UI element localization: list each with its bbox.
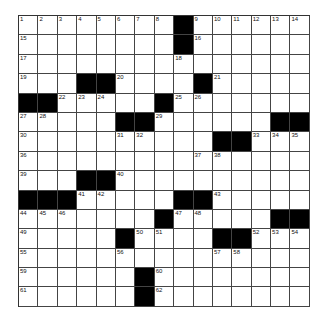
crossword-cell[interactable] [232, 171, 251, 190]
crossword-cell[interactable]: 7 [135, 16, 154, 35]
crossword-cell[interactable] [58, 268, 77, 287]
crossword-cell[interactable] [252, 287, 271, 306]
crossword-cell[interactable] [290, 287, 309, 306]
crossword-cell[interactable] [213, 55, 232, 74]
crossword-cell[interactable] [252, 35, 271, 54]
crossword-cell[interactable] [213, 210, 232, 229]
crossword-cell[interactable]: 58 [232, 249, 251, 268]
crossword-cell[interactable] [252, 152, 271, 171]
crossword-cell[interactable] [38, 171, 57, 190]
crossword-cell[interactable] [58, 74, 77, 93]
crossword-cell[interactable] [135, 152, 154, 171]
crossword-cell[interactable]: 11 [232, 16, 251, 35]
crossword-cell[interactable]: 18 [174, 55, 193, 74]
crossword-cell[interactable] [290, 74, 309, 93]
crossword-cell[interactable] [174, 229, 193, 248]
crossword-cell[interactable] [135, 249, 154, 268]
crossword-cell[interactable] [174, 113, 193, 132]
crossword-cell[interactable] [58, 55, 77, 74]
crossword-cell[interactable] [194, 229, 213, 248]
crossword-cell[interactable] [271, 268, 290, 287]
crossword-cell[interactable] [97, 113, 116, 132]
crossword-cell[interactable] [194, 249, 213, 268]
crossword-cell[interactable] [252, 249, 271, 268]
crossword-cell[interactable] [252, 94, 271, 113]
crossword-cell[interactable] [213, 94, 232, 113]
crossword-cell[interactable] [271, 287, 290, 306]
crossword-cell[interactable] [77, 55, 96, 74]
crossword-cell[interactable] [213, 171, 232, 190]
crossword-cell[interactable]: 34 [271, 132, 290, 151]
crossword-cell[interactable] [77, 249, 96, 268]
crossword-cell[interactable] [174, 132, 193, 151]
crossword-cell[interactable] [290, 55, 309, 74]
crossword-cell[interactable]: 53 [271, 229, 290, 248]
crossword-cell[interactable] [58, 35, 77, 54]
crossword-cell[interactable] [155, 132, 174, 151]
crossword-cell[interactable]: 41 [77, 191, 96, 210]
crossword-cell[interactable]: 49 [19, 229, 38, 248]
crossword-cell[interactable] [155, 74, 174, 93]
crossword-cell[interactable] [194, 171, 213, 190]
crossword-cell[interactable] [213, 268, 232, 287]
crossword-cell[interactable] [97, 268, 116, 287]
crossword-cell[interactable] [116, 268, 135, 287]
crossword-cell[interactable] [38, 287, 57, 306]
crossword-cell[interactable]: 2 [38, 16, 57, 35]
crossword-cell[interactable] [213, 113, 232, 132]
crossword-cell[interactable]: 39 [19, 171, 38, 190]
crossword-cell[interactable] [252, 74, 271, 93]
crossword-cell[interactable]: 62 [155, 287, 174, 306]
crossword-cell[interactable] [38, 152, 57, 171]
crossword-cell[interactable] [271, 191, 290, 210]
crossword-cell[interactable]: 60 [155, 268, 174, 287]
crossword-cell[interactable]: 35 [290, 132, 309, 151]
crossword-cell[interactable] [232, 55, 251, 74]
crossword-cell[interactable] [290, 35, 309, 54]
crossword-cell[interactable]: 50 [135, 229, 154, 248]
crossword-cell[interactable]: 3 [58, 16, 77, 35]
crossword-cell[interactable] [58, 171, 77, 190]
crossword-cell[interactable] [38, 132, 57, 151]
crossword-cell[interactable]: 15 [19, 35, 38, 54]
crossword-cell[interactable]: 12 [252, 16, 271, 35]
crossword-cell[interactable] [58, 113, 77, 132]
crossword-cell[interactable]: 17 [19, 55, 38, 74]
crossword-cell[interactable] [252, 268, 271, 287]
crossword-cell[interactable] [116, 55, 135, 74]
crossword-cell[interactable]: 51 [155, 229, 174, 248]
crossword-cell[interactable] [232, 210, 251, 229]
crossword-cell[interactable] [290, 171, 309, 190]
crossword-cell[interactable]: 57 [213, 249, 232, 268]
crossword-cell[interactable] [252, 55, 271, 74]
crossword-cell[interactable]: 28 [38, 113, 57, 132]
crossword-cell[interactable]: 13 [271, 16, 290, 35]
crossword-cell[interactable] [174, 152, 193, 171]
crossword-cell[interactable] [194, 268, 213, 287]
crossword-cell[interactable] [252, 113, 271, 132]
crossword-cell[interactable] [155, 55, 174, 74]
crossword-cell[interactable] [252, 191, 271, 210]
crossword-cell[interactable] [135, 35, 154, 54]
crossword-cell[interactable]: 45 [38, 210, 57, 229]
crossword-cell[interactable]: 56 [116, 249, 135, 268]
crossword-cell[interactable] [213, 287, 232, 306]
crossword-cell[interactable]: 19 [19, 74, 38, 93]
crossword-cell[interactable] [38, 55, 57, 74]
crossword-cell[interactable] [290, 94, 309, 113]
crossword-cell[interactable] [232, 35, 251, 54]
crossword-cell[interactable] [135, 210, 154, 229]
crossword-cell[interactable] [232, 152, 251, 171]
crossword-cell[interactable]: 33 [252, 132, 271, 151]
crossword-cell[interactable]: 10 [213, 16, 232, 35]
crossword-cell[interactable]: 31 [116, 132, 135, 151]
crossword-cell[interactable] [271, 35, 290, 54]
crossword-cell[interactable] [194, 113, 213, 132]
crossword-cell[interactable]: 16 [194, 35, 213, 54]
crossword-cell[interactable] [77, 152, 96, 171]
crossword-cell[interactable] [232, 268, 251, 287]
crossword-cell[interactable]: 48 [194, 210, 213, 229]
crossword-cell[interactable] [38, 268, 57, 287]
crossword-cell[interactable]: 32 [135, 132, 154, 151]
crossword-cell[interactable]: 43 [213, 191, 232, 210]
